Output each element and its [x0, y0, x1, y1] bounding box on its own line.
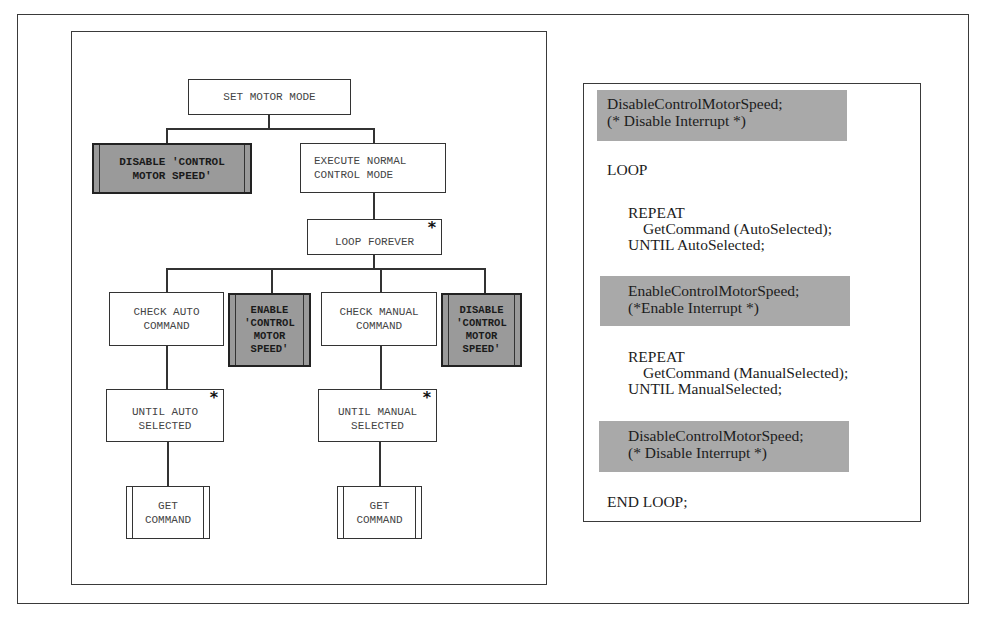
node-label: UNTIL MANUAL SELECTED — [338, 405, 417, 433]
node-label: SET MOTOR MODE — [223, 90, 315, 104]
node-execute-normal-control-mode: EXECUTE NORMAL CONTROL MODE — [300, 143, 446, 193]
code-line: GetCommand (AutoSelected); — [643, 221, 832, 237]
code-line: UNTIL AutoSelected; — [628, 237, 765, 253]
connector — [484, 268, 486, 293]
code-line: REPEAT — [628, 349, 685, 365]
node-label: CHECK AUTO COMMAND — [133, 305, 199, 333]
node-label: DISABLE 'CONTROL MOTOR SPEED' — [119, 155, 225, 183]
connector — [373, 254, 375, 269]
code-line: (*Enable Interrupt *) — [628, 300, 759, 316]
code-line: GetCommand (ManualSelected); — [643, 365, 848, 381]
node-label: ENABLE 'CONTROL MOTOR SPEED' — [244, 304, 294, 356]
connector — [166, 345, 168, 389]
connector — [268, 114, 270, 129]
code-line: EnableControlMotorSpeed; — [628, 283, 799, 299]
connector — [166, 268, 168, 292]
node-disable-control-motor-speed: DISABLE 'CONTROL MOTOR SPEED' — [92, 143, 252, 194]
node-check-auto-command: CHECK AUTO COMMAND — [109, 292, 224, 346]
node-label: UNTIL AUTO SELECTED — [132, 405, 198, 433]
node-until-auto-selected: * UNTIL AUTO SELECTED — [106, 389, 224, 442]
connector — [373, 128, 375, 143]
code-line: (* Disable Interrupt *) — [607, 113, 746, 129]
node-get-command-manual: GET COMMAND — [337, 486, 422, 539]
code-line: LOOP — [607, 162, 647, 178]
connector — [271, 268, 273, 293]
node-until-manual-selected: * UNTIL MANUAL SELECTED — [318, 389, 437, 442]
connector — [373, 192, 375, 219]
iteration-marker-icon: * — [423, 390, 431, 406]
node-label: GET COMMAND — [145, 499, 191, 527]
node-disable-control-motor-speed-loop: DISABLE 'CONTROL MOTOR SPEED' — [441, 293, 522, 367]
node-label: GET COMMAND — [356, 499, 402, 527]
node-check-manual-command: CHECK MANUAL COMMAND — [321, 292, 437, 346]
node-label: LOOP FOREVER — [335, 235, 414, 249]
code-line: (* Disable Interrupt *) — [628, 445, 767, 461]
code-line: REPEAT — [628, 205, 685, 221]
node-loop-forever: * LOOP FOREVER — [307, 219, 442, 255]
iteration-marker-icon: * — [428, 220, 436, 236]
connector — [166, 128, 168, 143]
code-line: UNTIL ManualSelected; — [628, 381, 782, 397]
code-line: DisableControlMotorSpeed; — [628, 428, 804, 444]
connector — [166, 128, 374, 130]
node-set-motor-mode: SET MOTOR MODE — [188, 79, 351, 115]
node-get-command-auto: GET COMMAND — [126, 486, 210, 539]
node-label: DISABLE 'CONTROL MOTOR SPEED' — [456, 304, 506, 356]
node-label: CHECK MANUAL COMMAND — [339, 305, 418, 333]
connector — [379, 441, 381, 486]
connector — [166, 268, 485, 270]
connector — [167, 441, 169, 486]
iteration-marker-icon: * — [210, 390, 218, 406]
node-enable-control-motor-speed: ENABLE 'CONTROL MOTOR SPEED' — [228, 293, 311, 367]
connector — [380, 345, 382, 389]
node-label: EXECUTE NORMAL CONTROL MODE — [314, 154, 406, 182]
code-line: END LOOP; — [607, 494, 688, 510]
code-line: DisableControlMotorSpeed; — [607, 96, 783, 112]
connector — [380, 268, 382, 292]
